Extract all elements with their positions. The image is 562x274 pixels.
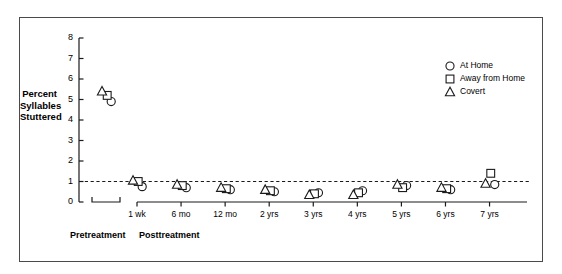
y-axis-title-line: Syllables [20,100,57,112]
legend-markers [445,62,454,96]
y-axis-title-line: Stuttered [20,111,57,123]
x-axis-tick-label: 5 yrs [384,209,418,219]
x-axis-tick-label: 6 yrs [428,209,462,219]
x-axis-tick-label: 1 wk [120,209,154,219]
x-axis-tick-label: 12 mo [208,209,242,219]
data-point-marker [481,179,490,188]
data-point-marker [446,75,454,83]
y-axis-tick-label: 2 [59,155,73,165]
x-axis-tick-label: 3 yrs [296,209,330,219]
y-axis-tick-label: 5 [59,94,73,104]
figure-frame: 0123456781 wk6 mo12 mo2 yrs3 yrs4 yrs5 y… [19,17,543,262]
y-axis-tick-label: 6 [59,73,73,83]
data-point-marker [97,86,106,95]
y-axis-tick-label: 7 [59,53,73,63]
data-points [97,86,498,198]
y-axis-tick-label: 0 [59,196,73,206]
chart-canvas [20,18,544,263]
data-point-marker [445,87,454,96]
x-axis-tick-label: 6 mo [164,209,198,219]
pretreatment-bracket [92,197,120,202]
y-axis-tick-label: 1 [59,176,73,186]
y-axis-tick-label: 8 [59,32,73,42]
data-point-marker [446,62,454,70]
y-axis-title-line: Percent [20,88,57,100]
x-axis-tick-label: 2 yrs [252,209,286,219]
phase-label-posttreatment: Posttreatment [139,230,200,240]
y-axis-title: PercentSyllablesStuttered [20,88,57,123]
data-point-marker [491,181,499,189]
y-axis-tick-label: 3 [59,135,73,145]
legend-label: Away from Home [460,73,525,83]
data-point-marker [487,169,495,177]
legend-label: At Home [460,60,493,70]
x-axis-tick-label: 4 yrs [340,209,374,219]
phase-label-pretreatment: Pretreatment [70,230,126,240]
legend-label: Covert [460,86,485,96]
x-axis-tick-label: 7 yrs [473,209,507,219]
